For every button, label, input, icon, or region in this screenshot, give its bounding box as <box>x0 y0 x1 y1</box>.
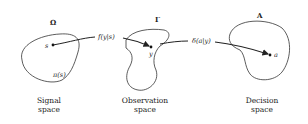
density-label: π(s) <box>53 72 66 79</box>
mapping-f-label: f(y|s) <box>98 34 115 41</box>
arrow-delta <box>160 41 188 44</box>
mapping-delta-label: δ(a|y) <box>192 38 211 45</box>
signal-space-symbol: Ω <box>50 19 56 26</box>
point-s-label: s <box>45 43 48 50</box>
decision-space-region <box>229 21 289 80</box>
caption-line: space <box>14 106 84 115</box>
arrow-f-head <box>123 38 149 46</box>
caption-line: space <box>227 106 297 115</box>
observation-space-caption: Observation space <box>110 97 180 114</box>
decision-space-symbol: A <box>257 12 262 19</box>
observation-space-symbol: Γ <box>155 16 160 23</box>
arrow-f <box>53 37 95 45</box>
decision-space-caption: Decision space <box>227 97 297 114</box>
point-a-label: a <box>274 52 278 59</box>
point-y-label: y <box>149 51 153 58</box>
observation-space-region <box>126 29 169 90</box>
caption-line: space <box>110 106 180 115</box>
point-a <box>269 54 272 57</box>
signal-space-caption: Signal space <box>14 97 84 114</box>
point-y <box>150 46 153 49</box>
